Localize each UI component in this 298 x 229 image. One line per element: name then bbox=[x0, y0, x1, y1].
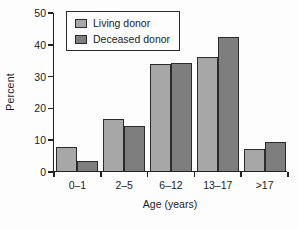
x-category-label: 2–5 bbox=[115, 179, 133, 191]
legend-label: Deceased donor bbox=[93, 33, 170, 45]
bar-deceased-donor-6–12 bbox=[171, 63, 192, 171]
y-axis-tick bbox=[48, 139, 53, 141]
bar-living-donor-6–12 bbox=[150, 64, 171, 171]
legend-item-deceased-donor: Deceased donor bbox=[75, 33, 170, 45]
x-category-label: 13–17 bbox=[203, 179, 232, 191]
living-donor-swatch-icon bbox=[75, 19, 87, 28]
legend: Living donor Deceased donor bbox=[66, 11, 180, 51]
bar-deceased-donor->17 bbox=[265, 142, 286, 171]
bar-living-donor->17 bbox=[244, 149, 265, 171]
y-axis-tick-label: 10 bbox=[34, 135, 46, 145]
y-axis-tick bbox=[48, 44, 53, 46]
x-category-label: >17 bbox=[256, 179, 274, 191]
y-axis-tick-label: 40 bbox=[34, 40, 46, 50]
x-category-label: 0–1 bbox=[69, 179, 87, 191]
legend-label: Living donor bbox=[93, 17, 150, 29]
bar-deceased-donor-2–5 bbox=[124, 126, 145, 171]
x-axis-tick bbox=[240, 172, 242, 177]
y-axis-tick bbox=[48, 12, 53, 14]
x-axis-tick bbox=[287, 172, 289, 177]
y-axis-tick bbox=[48, 171, 53, 173]
bar-deceased-donor-13–17 bbox=[218, 37, 239, 171]
y-axis-title: Percent bbox=[4, 73, 16, 111]
x-axis-tick bbox=[194, 172, 196, 177]
deceased-donor-swatch-icon bbox=[75, 35, 87, 44]
bar-living-donor-2–5 bbox=[103, 119, 124, 171]
x-axis-tick bbox=[53, 172, 55, 177]
bar-living-donor-0–1 bbox=[56, 147, 77, 171]
y-axis-tick bbox=[48, 108, 53, 110]
y-axis-tick-label: 50 bbox=[34, 8, 46, 18]
x-axis-tick bbox=[147, 172, 149, 177]
x-axis-title: Age (years) bbox=[143, 198, 197, 210]
x-category-label: 6–12 bbox=[159, 179, 182, 191]
y-axis-tick-label: 0 bbox=[40, 167, 46, 177]
x-axis-tick bbox=[100, 172, 102, 177]
bar-deceased-donor-0–1 bbox=[77, 161, 98, 171]
y-axis-tick bbox=[48, 76, 53, 78]
bar-chart-figure: Percent 010203040500–12–56–1213–17>17 Li… bbox=[0, 0, 298, 229]
y-axis-tick-label: 20 bbox=[34, 103, 46, 113]
y-axis-tick-label: 30 bbox=[34, 72, 46, 82]
bar-living-donor-13–17 bbox=[197, 57, 218, 171]
legend-item-living-donor: Living donor bbox=[75, 17, 170, 29]
